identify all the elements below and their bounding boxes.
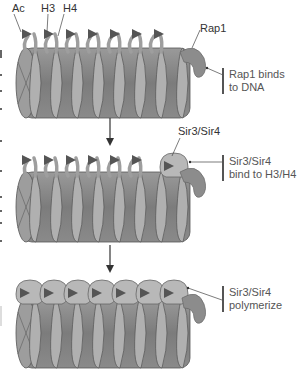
- callout-step1: Rap1 binds to DNA: [222, 68, 285, 94]
- chromatin-diagram: [0, 0, 303, 376]
- step1-chromatin: [16, 48, 190, 118]
- step2-chromatin: [16, 172, 190, 242]
- callout-step3: Sir3/Sir4 polymerize: [222, 286, 282, 312]
- page-edge: [0, 0, 3, 376]
- label-sir3-sir4: Sir3/Sir4: [178, 125, 220, 138]
- arrow-step2-to-step3: [106, 245, 114, 273]
- callout-step2: Sir3/Sir4 bind to H3/H4: [222, 155, 296, 181]
- callout-step3-line1: Sir3/Sir4: [229, 286, 282, 299]
- step2-acetyl-flags: [22, 155, 142, 165]
- callout-step1-line1: Rap1 binds: [229, 68, 285, 81]
- arrow-step1-to-step2: [106, 118, 114, 146]
- step3-sir-polymer: [16, 280, 188, 304]
- callout-step3-line2: polymerize: [229, 299, 282, 312]
- step3-chromatin: [16, 298, 190, 368]
- diagram-canvas: Ac H3 H4 Rap1 Sir3/Sir4 Rap1 binds to DN…: [0, 0, 303, 376]
- callout-step2-line2: bind to H3/H4: [229, 168, 296, 181]
- step1-acetyl-flags: [22, 29, 164, 39]
- label-ac: Ac: [12, 2, 25, 15]
- label-h3: H3: [41, 2, 55, 15]
- label-rap1: Rap1: [200, 22, 226, 35]
- callout-step2-line1: Sir3/Sir4: [229, 155, 296, 168]
- label-h4: H4: [63, 2, 77, 15]
- callout-step1-line2: to DNA: [229, 81, 285, 94]
